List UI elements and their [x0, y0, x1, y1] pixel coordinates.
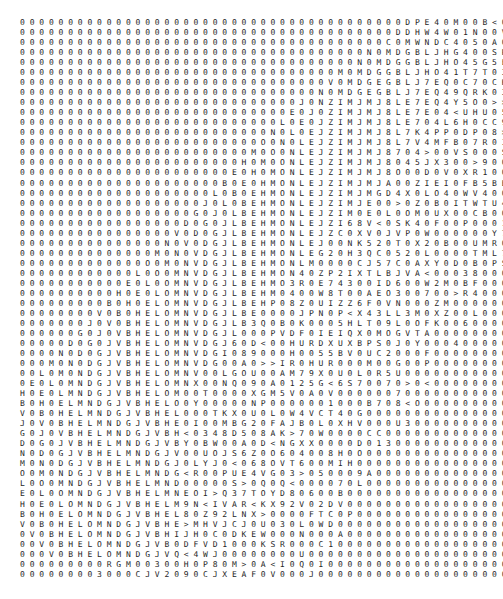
matrix-row: H 0 E 0 L O M N D G J V B H E L M 9 N < … [20, 500, 486, 510]
matrix-row: E 0 L 0 O M N D G J V B H E L M N E O I … [20, 489, 486, 499]
matrix-row: 0 0 0 0 0 0 0 0 0 0 0 0 0 0 0 0 0 0 0 0 … [20, 88, 486, 98]
matrix-row: 0 0 0 0 0 0 0 0 0 0 0 0 0 0 0 0 0 0 0 0 … [20, 138, 486, 148]
matrix-row: 0 0 0 0 0 0 0 0 0 0 0 0 0 0 0 0 0 D 0 G … [20, 219, 486, 229]
matrix-row: 0 E 0 L 0 M N D G J V B H E L O M N X 0 … [20, 379, 486, 389]
matrix-row: O 0 M 0 N D G J V B H E L M N D G < R 0 … [20, 469, 486, 479]
matrix-row: 0 0 0 0 0 0 0 0 0 0 0 0 0 0 0 0 0 0 0 0 … [20, 38, 486, 48]
matrix-row: 0 0 V 0 B H E L O M N D G J V B 0 D F V … [20, 540, 486, 550]
matrix-row: 0 0 0 0 0 0 0 0 0 0 0 0 0 0 0 0 0 0 0 0 … [20, 108, 486, 118]
matrix-row: M 0 N 0 D G J V B H E L M N D G J 0 L Y … [20, 459, 486, 469]
matrix-row: B 0 H 0 E L M N D G J V B H E L O 0 Y 0 … [20, 399, 486, 409]
matrix-row: V 0 B 0 H E L O M N D G J V B H E > M H … [20, 520, 486, 530]
matrix-row: V 0 B 0 H E L M N D G J V B H E L 0 0 0 … [20, 409, 486, 419]
matrix-row: 0 0 0 0 0 0 0 0 0 0 0 0 0 0 0 0 0 0 0 0 … [20, 118, 486, 128]
matrix-row: 0 0 0 0 0 0 0 0 0 0 0 0 0 0 0 0 0 0 0 J … [20, 199, 486, 209]
matrix-row: 0 0 0 0 0 0 0 0 0 0 0 E 0 L 0 O M N V D … [20, 279, 486, 289]
matrix-row: 0 0 0 0 0 0 0 0 0 0 0 0 0 0 0 0 0 0 0 0 … [20, 58, 486, 68]
matrix-row: 0 0 0 0 0 0 0 0 0 0 0 0 0 0 0 0 0 0 0 0 … [20, 28, 486, 38]
matrix-row: 0 0 0 0 0 0 G 0 J 0 V B H E L O M N V D … [20, 329, 486, 339]
matrix-row: 0 0 0 0 0 0 0 0 0 R G M 0 0 3 0 0 H 0 P … [20, 560, 486, 570]
matrix-row: 0 0 0 0 0 0 0 0 V 0 B 0 H E L O M N V D … [20, 309, 486, 319]
matrix-row: N 0 D 0 G J V B H E L M N D G J V 0 0 U … [20, 449, 486, 459]
matrix-row: J 0 V 0 B H E L M N D G J V B H E 0 I 0 … [20, 419, 486, 429]
matrix-row: 0 0 0 0 0 0 0 0 0 0 0 0 0 0 M 0 N 0 V D … [20, 249, 486, 259]
matrix-row: L 0 O 0 M N D G J V B H E L M N D 0 0 0 … [20, 479, 486, 489]
matrix-row: 0 0 0 0 0 0 0 0 0 0 0 0 0 0 0 0 0 0 0 0 … [20, 98, 486, 108]
matrix-row: 0 0 0 0 0 0 0 0 0 0 0 0 0 0 0 0 0 0 0 0 … [20, 18, 486, 28]
matrix-row: 0 0 0 0 N 0 D 0 G J V B H E L O M N V D … [20, 349, 486, 359]
matrix-row: 0 0 0 0 0 0 0 0 0 0 0 0 0 0 0 0 0 0 0 0 … [20, 48, 486, 58]
matrix-row: 0 0 0 M 0 N 0 D G J V B H E L O M N V D … [20, 359, 486, 369]
matrix-row: 0 0 0 0 0 0 0 0 0 0 0 0 0 0 0 0 0 0 0 0 … [20, 148, 486, 158]
matrix-row: 0 0 0 0 0 0 0 0 0 0 0 0 0 0 0 0 0 0 0 0 … [20, 68, 486, 78]
matrix-row: 0 0 0 0 0 0 0 0 0 0 0 0 0 0 0 0 0 0 0 0 … [20, 128, 486, 138]
matrix-row: 0 0 0 0 0 0 0 0 0 0 0 0 L 0 O 0 M N V D … [20, 269, 486, 279]
matrix-row: 0 0 0 0 0 0 0 J 0 V 0 B H E L O M N V D … [20, 319, 486, 329]
matrix-row: 0 0 0 0 0 0 0 0 3 0 0 0 C J V 2 0 9 0 C … [20, 570, 486, 580]
matrix-row: 0 0 0 0 0 0 0 0 0 0 0 0 0 O 0 M 0 N V D … [20, 259, 486, 269]
matrix-row: 0 0 0 0 0 0 0 0 0 0 H 0 E 0 L O M N V D … [20, 289, 486, 299]
matrix-row: 0 0 0 0 0 0 0 0 0 0 0 0 0 0 0 0 0 0 G 0 … [20, 209, 486, 219]
matrix-row: 0 0 0 0 0 0 0 0 0 0 0 0 0 0 0 0 0 0 0 0 … [20, 189, 486, 199]
matrix-row: 0 0 0 V 0 B H E L O M N D G J V Q < 4 W … [20, 550, 486, 560]
character-matrix-grid: 0 0 0 0 0 0 0 0 0 0 0 0 0 0 0 0 0 0 0 0 … [20, 18, 486, 584]
matrix-row: 0 0 L 0 M 0 N D G J V B H E L O M N V 0 … [20, 369, 486, 379]
matrix-row: 0 0 0 0 0 0 0 0 0 B 0 H 0 E L O M N V D … [20, 299, 486, 309]
matrix-row: 0 V 0 B H E L O M N D G J V B H I J H 0 … [20, 530, 486, 540]
matrix-row: 0 0 0 0 0 0 0 0 0 0 0 0 0 0 0 N 0 V 0 D … [20, 239, 486, 249]
matrix-row: D 0 G 0 J V B H E L M N D G J V B Y 0 B … [20, 439, 486, 449]
matrix-row: 0 0 0 0 0 D 0 G 0 J V B H E L O M N V D … [20, 339, 486, 349]
matrix-row: 0 0 0 0 0 0 0 0 0 0 0 0 0 0 0 0 0 0 0 0 … [20, 158, 486, 168]
matrix-row: 0 0 0 0 0 0 0 0 0 0 0 0 0 0 0 0 0 0 0 0 … [20, 179, 486, 189]
matrix-row: H 0 E 0 L M N D G J V B H E L O M 0 0 T … [20, 389, 486, 399]
matrix-row: 0 0 0 0 0 0 0 0 0 0 0 0 0 0 0 0 V 0 D 0 … [20, 229, 486, 239]
matrix-row: B 0 H 0 E L O M N D G J V B H E L 8 0 Z … [20, 510, 486, 520]
matrix-row: G 0 J 0 V B H E L M N D G J V B H < 0 3 … [20, 429, 486, 439]
matrix-panel: 0 0 0 0 0 0 0 0 0 0 0 0 0 0 0 0 0 0 0 0 … [0, 0, 503, 599]
matrix-row: 0 0 0 0 0 0 0 0 0 0 0 0 0 0 0 0 0 0 0 0 … [20, 78, 486, 88]
matrix-row: 0 0 0 0 0 0 0 0 0 0 0 0 0 0 0 0 0 0 0 0 … [20, 168, 486, 178]
